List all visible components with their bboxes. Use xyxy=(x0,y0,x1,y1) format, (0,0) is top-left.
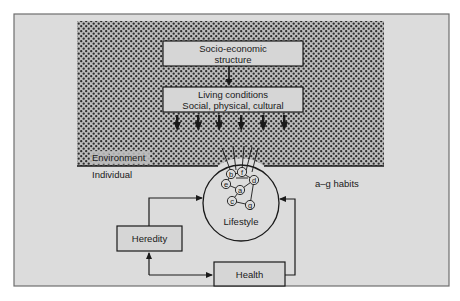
living-conditions-label-line1: Living conditions xyxy=(198,89,268,100)
socio-economic-structure-box: Socio-economic structure xyxy=(163,41,303,66)
habit-node-f: f xyxy=(237,167,246,176)
environment-label: Environment xyxy=(92,152,146,163)
habit-node-a: a xyxy=(235,185,244,194)
living-conditions-box: Living conditions Social, physical, cult… xyxy=(163,87,303,112)
svg-text:b: b xyxy=(229,170,233,179)
habit-node-d: d xyxy=(249,175,258,184)
individual-label: Individual xyxy=(92,169,132,180)
lifestyle-label: Lifestyle xyxy=(224,216,259,227)
habit-node-c: c xyxy=(227,196,236,205)
environment-label-group: Environment xyxy=(90,151,150,164)
heredity-box: Heredity xyxy=(117,226,182,251)
svg-text:d: d xyxy=(252,176,256,185)
habits-legend: a–g habits xyxy=(315,178,359,189)
socio-economic-label-line2: structure xyxy=(215,54,252,65)
health-box: Health xyxy=(214,262,285,286)
habit-node-b: b xyxy=(226,169,235,178)
svg-text:e: e xyxy=(224,180,228,189)
lifestyle-health-diagram: Socio-economic structure Living conditio… xyxy=(0,0,460,301)
health-label: Health xyxy=(236,269,263,280)
habit-node-g: g xyxy=(245,200,254,209)
svg-text:g: g xyxy=(248,201,252,210)
living-conditions-label-line2: Social, physical, cultural xyxy=(182,100,283,111)
socio-economic-label-line1: Socio-economic xyxy=(199,43,267,54)
svg-text:c: c xyxy=(230,197,234,206)
heredity-label: Heredity xyxy=(132,233,168,244)
habit-node-e: e xyxy=(221,179,230,188)
